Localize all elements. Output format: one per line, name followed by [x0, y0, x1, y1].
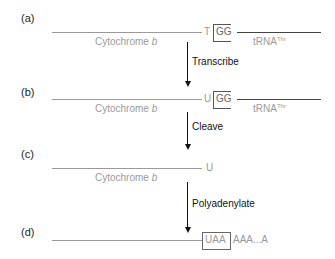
- arrow-transcribe: [187, 42, 188, 82]
- arrowhead-cleave-icon: [185, 144, 191, 150]
- junction-nt-c: U: [206, 162, 213, 173]
- boxed-nt-a: GG: [216, 26, 232, 37]
- mrna-line-d: [52, 240, 202, 241]
- arrow-polyadenylate: [187, 182, 188, 228]
- cytochrome-b-line-a: [52, 32, 202, 33]
- action-transcribe: Transcribe: [192, 56, 239, 67]
- trna-label-a: tRNAThr: [253, 36, 286, 47]
- trna-line-b: [237, 99, 321, 100]
- step-label-a: (a): [21, 12, 34, 24]
- polya-tail: AAA...A: [233, 234, 268, 245]
- trna-label-b: tRNAThr: [253, 103, 286, 114]
- action-cleave: Cleave: [192, 121, 223, 132]
- cytochrome-b-line-b: [52, 99, 202, 100]
- trna-line-a: [237, 32, 321, 33]
- gene-label-c: Cytochrome b: [95, 172, 157, 183]
- arrowhead-polyadenylate-icon: [185, 227, 191, 233]
- step-label-c: (c): [21, 148, 34, 160]
- step-label-b: (b): [21, 86, 34, 98]
- junction-nt-b: U: [204, 93, 211, 104]
- gene-label-a: Cytochrome b: [95, 36, 157, 47]
- step-label-d: (d): [21, 226, 34, 238]
- arrow-cleave: [187, 112, 188, 145]
- arrowhead-transcribe-icon: [185, 81, 191, 87]
- action-polyadenylate: Polyadenylate: [192, 198, 255, 209]
- stop-codon: UAA: [205, 234, 226, 245]
- cytochrome-b-line-c: [52, 168, 202, 169]
- gene-label-b: Cytochrome b: [95, 103, 157, 114]
- boxed-nt-b: GG: [216, 93, 232, 104]
- junction-nt-a: T: [204, 26, 210, 37]
